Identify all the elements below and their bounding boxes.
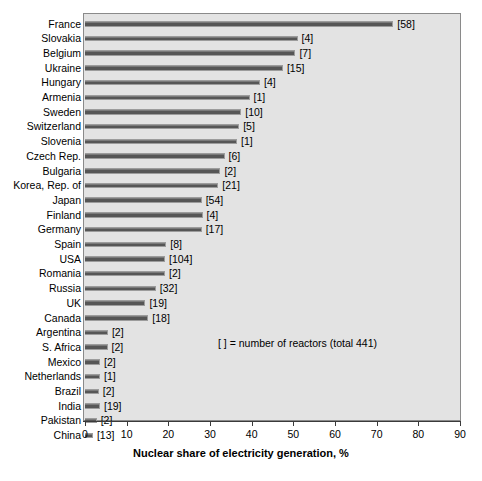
bar-reactor-count: [19] (145, 296, 167, 311)
bar-row: Korea, Rep. of[21] (0, 178, 482, 193)
bar-row: USA[104] (0, 252, 482, 267)
x-axis-title: Nuclear share of electricity generation,… (0, 447, 482, 459)
bar-row: Czech Rep.[6] (0, 149, 482, 164)
bar (85, 95, 250, 101)
bar-row: Mexico[2] (0, 355, 482, 370)
bar-track: [5] (85, 119, 482, 134)
bar-row: Slovenia[1] (0, 134, 482, 149)
bar-reactor-count: [18] (148, 311, 170, 326)
bar-reactor-count: [17] (202, 222, 224, 237)
bar-track: [8] (85, 237, 482, 252)
bar-reactor-count: [1] (250, 90, 266, 105)
x-tick-mark (210, 421, 211, 426)
category-label-ukraine: Ukraine (45, 61, 81, 76)
bar (85, 344, 108, 350)
bar-reactor-count: [2] (108, 340, 124, 355)
x-tick-label: 20 (153, 428, 183, 440)
bar-track: [18] (85, 311, 482, 326)
bar-reactor-count: [32] (156, 281, 178, 296)
bar-reactor-count: [2] (165, 266, 181, 281)
bar-row: Canada[18] (0, 311, 482, 326)
bar (85, 389, 99, 395)
bar (85, 359, 100, 365)
bar-row: Slovakia[4] (0, 31, 482, 46)
bar (85, 65, 283, 71)
bar-reactor-count: [2] (108, 325, 124, 340)
bar (85, 256, 165, 262)
bar (85, 50, 295, 56)
x-tick-label: 60 (320, 428, 350, 440)
bar-track: [104] (85, 252, 482, 267)
bar-row: UK[19] (0, 296, 482, 311)
bar-reactor-count: [54] (202, 193, 224, 208)
bar-reactor-count: [4] (203, 208, 219, 223)
bar-track: [1] (85, 90, 482, 105)
bar (85, 139, 237, 145)
bar-row: Sweden[10] (0, 105, 482, 120)
bar-track: [4] (85, 208, 482, 223)
bar (85, 36, 298, 42)
category-label-hungary: Hungary (41, 75, 81, 90)
bar-row: Armenia[1] (0, 90, 482, 105)
category-label-germany: Germany (38, 222, 81, 237)
bar (85, 183, 218, 189)
bar-track: [32] (85, 281, 482, 296)
bar-row: Netherlands[1] (0, 369, 482, 384)
bar-reactor-count: [10] (241, 105, 263, 120)
bar (85, 403, 100, 409)
x-tick-label: 10 (112, 428, 142, 440)
bar-reactor-count: [4] (298, 31, 314, 46)
bar (85, 197, 202, 203)
category-label-switzerland: Switzerland (27, 119, 81, 134)
x-tick-label: 0 (70, 428, 100, 440)
bar (85, 212, 203, 218)
category-label-argentina: Argentina (36, 325, 81, 340)
bar-track: [2] (85, 384, 482, 399)
bar-track: [4] (85, 31, 482, 46)
x-tick-mark (252, 421, 253, 426)
category-label-pakistan: Pakistan (41, 413, 81, 428)
x-tick-mark (418, 421, 419, 426)
x-tick-mark (377, 421, 378, 426)
x-tick-label: 40 (237, 428, 267, 440)
category-label-korea-rep-of: Korea, Rep. of (13, 178, 81, 193)
category-label-india: India (58, 399, 81, 414)
bar-track: [58] (85, 17, 482, 32)
bar-track: [54] (85, 193, 482, 208)
bar-track: [2] (85, 164, 482, 179)
bar (85, 374, 100, 380)
x-tick-label: 50 (278, 428, 308, 440)
bar-row: Russia[32] (0, 281, 482, 296)
x-tick-mark (460, 421, 461, 426)
bar-reactor-count: [4] (260, 75, 276, 90)
bar-track: [7] (85, 46, 482, 61)
bar-reactor-count: [19] (100, 399, 122, 414)
category-label-belgium: Belgium (43, 46, 81, 61)
category-label-bulgaria: Bulgaria (42, 164, 81, 179)
bar-row: Spain[8] (0, 237, 482, 252)
bar-reactor-count: [7] (295, 46, 311, 61)
bar-reactor-count: [1] (100, 369, 116, 384)
category-label-brazil: Brazil (55, 384, 81, 399)
category-label-spain: Spain (54, 237, 81, 252)
category-label-france: France (48, 17, 81, 32)
x-tick-mark (335, 421, 336, 426)
x-tick-label: 70 (362, 428, 392, 440)
category-label-finland: Finland (47, 208, 81, 223)
bar-reactor-count: [2] (99, 384, 115, 399)
category-label-slovenia: Slovenia (41, 134, 81, 149)
bar-track: [2] (85, 266, 482, 281)
category-label-mexico: Mexico (48, 355, 81, 370)
bar-track: [6] (85, 149, 482, 164)
bar-reactor-count: [6] (225, 149, 241, 164)
bar-reactor-count: [21] (218, 178, 240, 193)
bar-reactor-count: [8] (166, 237, 182, 252)
x-tick-mark (85, 421, 86, 426)
bar (85, 109, 241, 115)
bar-track: [17] (85, 222, 482, 237)
category-label-armenia: Armenia (42, 90, 81, 105)
bar (85, 271, 165, 277)
category-label-usa: USA (59, 252, 81, 267)
x-tick-mark (168, 421, 169, 426)
bar-row: Ukraine[15] (0, 61, 482, 76)
